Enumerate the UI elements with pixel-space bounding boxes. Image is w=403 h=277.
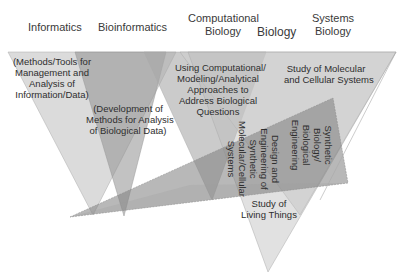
desc-line: Analysis of (12, 78, 92, 89)
desc-line: Questions (175, 106, 261, 117)
informatics-description: (Methods/Tools for Management and Analys… (12, 56, 92, 100)
header-computational-biology: Computational Biology (188, 12, 258, 38)
desc-line: Modeling/Analytical (175, 73, 261, 84)
desc-line: Management and (12, 67, 92, 78)
desc-line: Design and (270, 120, 281, 198)
desc-line: Systems (226, 120, 237, 198)
desc-line: Using Computational/ (175, 62, 261, 73)
desc-line: Living Things (239, 209, 299, 220)
desc-line: Information/Data) (12, 89, 92, 100)
header-bioinformatics: Bioinformatics (98, 21, 167, 34)
header-computational-line1: Computational (188, 12, 258, 25)
header-systems-line2: Biology (308, 25, 358, 38)
biology-description: Study of Living Things (239, 198, 299, 220)
desc-line: Engineering (290, 110, 301, 180)
desc-line: Synthetic (323, 110, 334, 180)
header-computational-line2: Biology (188, 25, 258, 38)
desc-line: Approaches to (175, 84, 261, 95)
desc-line: Study of Molecular (284, 63, 368, 74)
design-engineering-description: Design and Engineering of Synthetic Mole… (226, 120, 281, 198)
header-informatics: Informatics (28, 21, 82, 34)
desc-line: of Biological Data) (86, 125, 170, 136)
synthetic-biology-description: Synthetic Biology/ Biological Engineerin… (290, 110, 334, 180)
desc-line: Biology/ (312, 110, 323, 180)
computational-biology-description: Using Computational/ Modeling/Analytical… (175, 62, 261, 117)
desc-line: (Development of (86, 103, 170, 114)
venn-triangle-diagram (0, 0, 403, 277)
header-systems-biology: Systems Biology (308, 12, 358, 38)
desc-line: Address Biological (175, 95, 261, 106)
systems-biology-description: Study of Molecular and Cellular Systems (284, 63, 368, 85)
desc-line: and Cellular Systems (284, 74, 368, 85)
desc-line: Study of (239, 198, 299, 209)
desc-line: Engineering of (259, 120, 270, 198)
desc-line: (Methods/Tools for (12, 56, 92, 67)
header-biology: Biology (257, 26, 296, 39)
desc-line: Methods for Analysis (86, 114, 170, 125)
desc-line: Synthetic (248, 120, 259, 198)
header-systems-line1: Systems (308, 12, 358, 25)
desc-line: Biological (301, 110, 312, 180)
bioinformatics-description: (Development of Methods for Analysis of … (86, 103, 170, 136)
desc-line: Molecular/Cellular (237, 120, 248, 198)
